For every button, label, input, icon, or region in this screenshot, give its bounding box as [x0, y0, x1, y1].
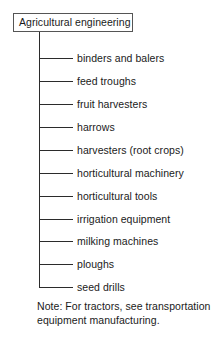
note-line-1: Note: For tractors, see transportation: [37, 300, 215, 314]
leaf-item-label: milking machines: [77, 236, 158, 247]
leaf-item-label: irrigation equipment: [77, 214, 170, 225]
root-node-label: Agricultural engineering: [19, 17, 131, 28]
leaf-item-label: horticultural machinery: [77, 168, 184, 179]
leaf-item-label: horticultural tools: [77, 191, 157, 202]
note-line-2: equipment manufacturing.: [37, 314, 215, 328]
leaf-item-label: harrows: [77, 122, 115, 133]
leaf-item-label: seed drills: [77, 282, 125, 293]
leaf-item-label: binders and balers: [77, 53, 164, 64]
leaf-item-label: ploughs: [77, 259, 114, 270]
leaf-item-label: harvesters (root crops): [77, 145, 184, 156]
tree-diagram: Agricultural engineering binders and bal…: [0, 0, 216, 339]
note-text: Note: For tractors, see transportation e…: [37, 300, 215, 327]
leaf-item-label: fruit harvesters: [77, 99, 147, 110]
root-node-agricultural-engineering: Agricultural engineering: [13, 13, 133, 32]
leaf-item-label: feed troughs: [77, 76, 136, 87]
